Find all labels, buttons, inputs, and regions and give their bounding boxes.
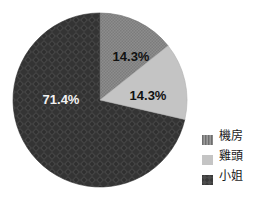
- legend-swatch-jitou: [202, 151, 213, 161]
- pie-svg: 14.3% 14.3% 71.4%: [0, 0, 200, 203]
- legend-item-xiaojie[interactable]: 小姐: [202, 166, 266, 186]
- legend-swatch-xiaojie: [202, 171, 213, 181]
- legend-item-jifang[interactable]: 機房: [202, 126, 266, 146]
- legend-label-jifang: 機房: [219, 130, 243, 142]
- legend-item-jitou[interactable]: 雞頭: [202, 146, 266, 166]
- legend-swatch-jifang: [202, 131, 213, 141]
- legend-label-xiaojie: 小姐: [219, 170, 243, 182]
- slice-label-2: 14.3%: [130, 88, 167, 103]
- legend: 機房 雞頭 小姐: [202, 126, 266, 186]
- pie-plot-area: 14.3% 14.3% 71.4%: [0, 0, 200, 203]
- slice-label-1: 14.3%: [113, 49, 150, 64]
- legend-label-jitou: 雞頭: [219, 150, 243, 162]
- pie-chart: 14.3% 14.3% 71.4% 機房 雞頭: [0, 0, 266, 203]
- slice-label-3: 71.4%: [43, 92, 80, 107]
